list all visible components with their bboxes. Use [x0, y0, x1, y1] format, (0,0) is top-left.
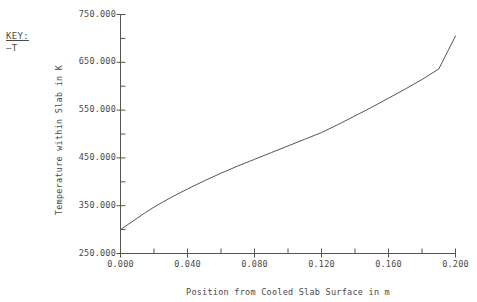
- series-line-T: [121, 36, 456, 230]
- chart-page: KEY: —T Temperature within Slab in K Pos…: [0, 0, 477, 302]
- axis-lines: [121, 15, 456, 254]
- tick-marks: [117, 15, 456, 258]
- data-series: [121, 36, 456, 230]
- plot-area: [0, 0, 477, 302]
